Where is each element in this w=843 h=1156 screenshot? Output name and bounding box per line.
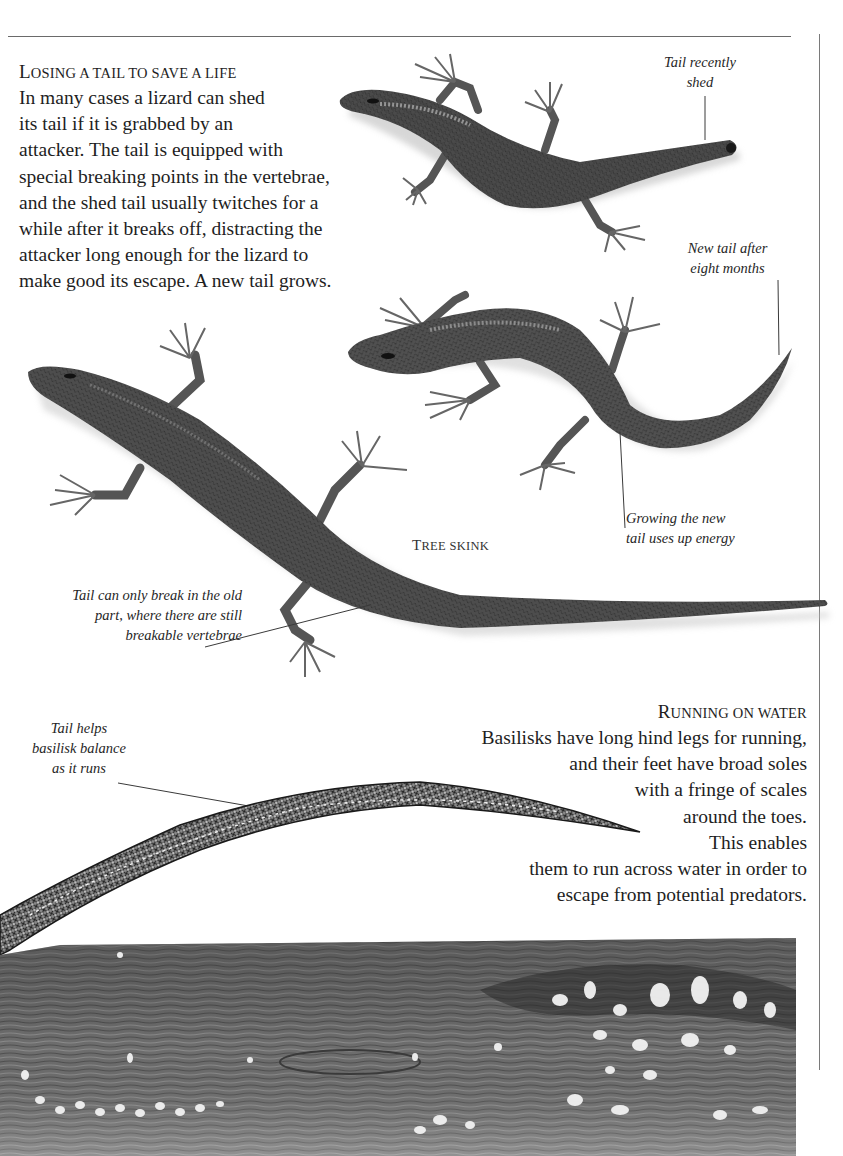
- losing-tail-section: LOSING A TAIL TO SAVE A LIFE In many cas…: [19, 60, 399, 295]
- caption-growing-new-tail: Growing the new tail uses up energy: [626, 508, 806, 548]
- caption-line: eight months: [660, 258, 795, 278]
- body-line: with a fringe of scales: [387, 777, 807, 803]
- caption-line: New tail after: [660, 238, 795, 258]
- body-line: and their feet have broad soles: [387, 751, 807, 777]
- heading-initial: R: [658, 701, 671, 722]
- species-smallcaps: REE SKINK: [421, 539, 489, 553]
- body-line: make good its escape. A new tail grows.: [19, 268, 399, 294]
- caption-line: Tail can only break in the old: [10, 585, 242, 605]
- caption-line: part, where there are still: [10, 605, 242, 625]
- body-line: them to run across water in order to: [387, 856, 807, 882]
- caption-line: Tail helps: [14, 718, 144, 738]
- caption-basilisk-tail: Tail helps basilisk balance as it runs: [14, 718, 144, 778]
- body-line: attacker. The tail is equipped with: [19, 137, 399, 163]
- lizard-new-tail-illustration: [348, 295, 794, 490]
- body-line: around the toes.: [387, 804, 807, 830]
- heading-initial: L: [19, 61, 31, 82]
- body-line: its tail if it is grabbed by an: [19, 111, 399, 137]
- body-line: In many cases a lizard can shed: [19, 85, 399, 111]
- caption-line: Tail recently: [640, 52, 760, 72]
- caption-line: tail uses up energy: [626, 528, 806, 548]
- losing-tail-body: In many cases a lizard can shed its tail…: [19, 85, 399, 295]
- caption-tail-break-old-part: Tail can only break in the old part, whe…: [10, 585, 242, 645]
- caption-line: as it runs: [14, 758, 144, 778]
- water-surface-illustration: [0, 938, 796, 1156]
- section-heading-running-on-water: RUNNING ON WATER: [387, 700, 807, 725]
- running-on-water-section: RUNNING ON WATER Basilisks have long hin…: [387, 700, 807, 908]
- body-line: escape from potential predators.: [387, 882, 807, 908]
- caption-line: Growing the new: [626, 508, 806, 528]
- body-line: Basilisks have long hind legs for runnin…: [387, 725, 807, 751]
- body-line: while after it breaks off, distracting t…: [19, 216, 399, 242]
- caption-line: basilisk balance: [14, 738, 144, 758]
- body-line: This enables: [387, 830, 807, 856]
- caption-new-tail: New tail after eight months: [660, 238, 795, 278]
- species-label-tree-skink: TREE SKINK: [412, 537, 489, 554]
- caption-line: breakable vertebrae: [10, 625, 242, 645]
- heading-smallcaps: UNNING ON WATER: [671, 705, 807, 721]
- body-line: attacker long enough for the lizard to: [19, 242, 399, 268]
- body-line: and the shed tail usually twitches for a: [19, 190, 399, 216]
- caption-tail-recently-shed: Tail recently shed: [640, 52, 760, 92]
- body-line: special breaking points in the vertebrae…: [19, 164, 399, 190]
- heading-smallcaps: OSING A TAIL TO SAVE A LIFE: [31, 65, 237, 81]
- section-heading-losing-tail: LOSING A TAIL TO SAVE A LIFE: [19, 60, 399, 85]
- running-on-water-body: Basilisks have long hind legs for runnin…: [387, 725, 807, 908]
- caption-line: shed: [640, 72, 760, 92]
